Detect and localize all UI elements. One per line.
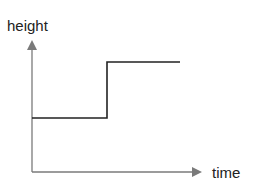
- y-axis-label: height: [7, 17, 48, 34]
- step-line: [32, 62, 180, 118]
- x-axis-label: time: [212, 164, 240, 181]
